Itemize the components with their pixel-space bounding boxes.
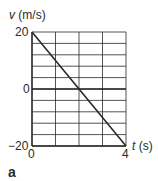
x-tick-0: 0 [28,148,35,160]
x-axis-label: t (s) [132,140,153,152]
y-axis-variable: v [9,8,15,22]
y-tick-0: 0 [23,83,30,95]
x-axis-variable: t [132,139,135,153]
y-axis-unit: (m/s) [18,8,45,22]
y-axis-label: v (m/s) [9,9,46,21]
panel-label: a [8,164,16,180]
x-axis-unit: (s) [139,139,153,153]
y-tick-20: 20 [15,26,28,38]
x-tick-4: 4 [122,148,129,160]
y-tick-neg20: −20 [8,140,28,152]
